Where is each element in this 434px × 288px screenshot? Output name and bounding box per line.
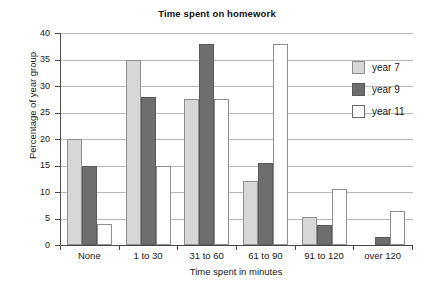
legend-item-year-7: year 7	[352, 56, 430, 78]
x-axis-tick-label: 91 to 120	[295, 250, 354, 261]
bar-none-year-9	[82, 166, 97, 246]
bar-91-to-120-year-9	[317, 225, 332, 245]
bar-61-to-90-year-11	[273, 44, 288, 245]
bar-91-to-120-year-11	[332, 189, 347, 245]
y-axis-tick-label: 5	[24, 214, 50, 223]
x-axis-tick-label: None	[60, 250, 119, 261]
bar-1-to-30-year-7	[126, 60, 141, 246]
bar-none-year-11	[97, 224, 112, 245]
gridline	[61, 166, 413, 167]
legend-item-year-9: year 9	[352, 78, 430, 100]
legend-swatch-icon	[352, 83, 365, 96]
x-axis-label: Time spent in minutes	[60, 266, 412, 277]
bar-31-to-60-year-7	[184, 99, 199, 245]
x-axis-tick-mark	[412, 246, 413, 250]
gridline	[61, 192, 413, 193]
bar-91-to-120-year-7	[302, 217, 317, 245]
y-axis-tick-label: 30	[24, 82, 50, 91]
bar-61-to-90-year-7	[243, 181, 258, 245]
y-axis-tick-label: 40	[24, 29, 50, 38]
chart-legend: year 7year 9year 11	[352, 56, 430, 122]
legend-swatch-icon	[352, 61, 365, 74]
y-axis-tick-label: 15	[24, 161, 50, 170]
bar-over-120-year-9	[375, 237, 390, 245]
bar-61-to-90-year-9	[258, 163, 273, 245]
x-axis-tick-label: over 120	[353, 250, 412, 261]
legend-item-year-11: year 11	[352, 100, 430, 122]
y-axis-tick-label: 20	[24, 135, 50, 144]
legend-label: year 11	[372, 106, 405, 117]
x-axis-tick-label: 1 to 30	[119, 250, 178, 261]
bar-over-120-year-11	[390, 211, 405, 245]
gridline	[61, 139, 413, 140]
gridline	[61, 33, 413, 34]
y-axis-tick-label: 10	[24, 188, 50, 197]
y-axis-tick-label: 25	[24, 108, 50, 117]
bar-1-to-30-year-11	[156, 166, 171, 246]
x-axis-tick-label: 61 to 90	[236, 250, 295, 261]
y-axis-tick-label: 0	[24, 241, 50, 250]
bar-1-to-30-year-9	[141, 97, 156, 245]
bar-31-to-60-year-9	[199, 44, 214, 245]
legend-label: year 7	[372, 62, 400, 73]
bar-none-year-7	[67, 139, 82, 245]
y-axis-tick-label: 35	[24, 55, 50, 64]
legend-label: year 9	[372, 84, 400, 95]
bar-31-to-60-year-11	[214, 99, 229, 245]
x-axis-tick-label: 31 to 60	[177, 250, 236, 261]
bar-chart: Time spent on homework Percentage of yea…	[0, 0, 434, 288]
y-axis-label: Percentage of year group	[27, 11, 38, 201]
chart-title: Time spent on homework	[0, 8, 434, 19]
legend-swatch-icon	[352, 105, 365, 118]
gridline	[61, 219, 413, 220]
